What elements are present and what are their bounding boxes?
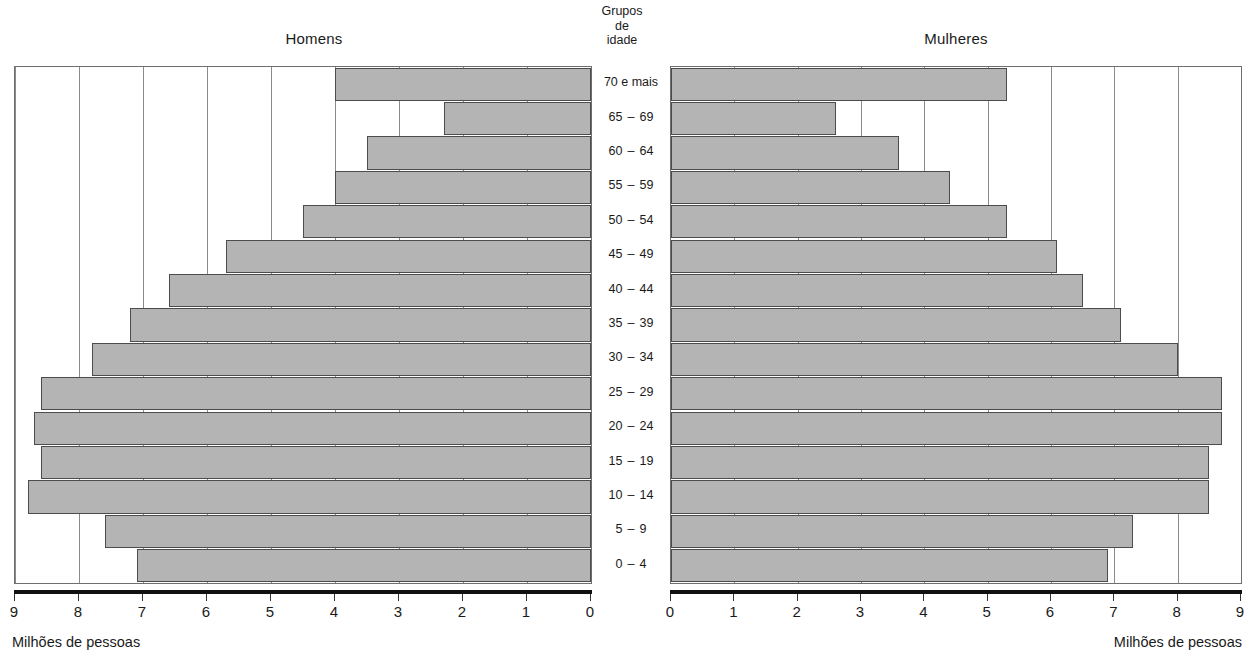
- age-group-label: 30–34: [592, 350, 670, 364]
- left-axis-caption: Milhões de pessoas: [12, 634, 140, 650]
- axis-tick-label: 9: [0, 603, 34, 620]
- axis-tick-label: 1: [506, 603, 546, 620]
- women-bar-row: [671, 515, 1241, 548]
- age-group-label: 20–24: [592, 419, 670, 433]
- women-bar-row: [671, 308, 1241, 341]
- axis-tick-label: 7: [1093, 603, 1133, 620]
- bar-women: [671, 308, 1121, 341]
- age-group-label: 50–54: [592, 213, 670, 227]
- bar-women: [671, 68, 1007, 101]
- axis-tick-label: 6: [1030, 603, 1070, 620]
- women-bar-row: [671, 480, 1241, 513]
- axis-tick-label: 5: [250, 603, 290, 620]
- bar-women: [671, 412, 1222, 445]
- men-bar-row: [15, 377, 591, 410]
- axis-tick: [526, 594, 527, 601]
- men-bar-row: [15, 240, 591, 273]
- bar-women: [671, 205, 1007, 238]
- men-bar-row: [15, 274, 591, 307]
- axis-tick-label: 8: [1157, 603, 1197, 620]
- bar-men: [105, 515, 591, 548]
- age-group-label: 25–29: [592, 385, 670, 399]
- axis-tick: [270, 594, 271, 601]
- axis-tick-label: 9: [1220, 603, 1256, 620]
- bar-women: [671, 480, 1209, 513]
- women-bar-row: [671, 412, 1241, 445]
- men-bar-row: [15, 515, 591, 548]
- axis-tick-label: 4: [903, 603, 943, 620]
- women-bar-row: [671, 240, 1241, 273]
- bar-women: [671, 240, 1057, 273]
- bar-men: [335, 68, 591, 101]
- bar-women: [671, 136, 899, 169]
- age-group-label-column: 70 e mais65–6960–6455–5950–5445–4940–443…: [592, 66, 670, 584]
- women-bar-row: [671, 68, 1241, 101]
- axis-tick-label: 2: [777, 603, 817, 620]
- men-bar-row: [15, 412, 591, 445]
- axis-tick: [206, 594, 207, 601]
- bar-women: [671, 377, 1222, 410]
- bar-men: [130, 308, 591, 341]
- men-bar-row: [15, 308, 591, 341]
- gridline: [1241, 67, 1242, 583]
- left-axis-ticks: 9876543210: [14, 594, 592, 628]
- axis-tick: [987, 594, 988, 601]
- axis-tick-label: 4: [314, 603, 354, 620]
- age-group-label: 5–9: [592, 522, 670, 536]
- population-pyramid-chart: Homens Mulheres Grupos de idade 70 e mai…: [0, 0, 1256, 666]
- bar-men: [226, 240, 591, 273]
- age-group-label: 40–44: [592, 282, 670, 296]
- women-bar-row: [671, 377, 1241, 410]
- axis-tick: [334, 594, 335, 601]
- age-group-header-line2: de: [574, 19, 670, 34]
- axis-tick-label: 3: [378, 603, 418, 620]
- men-bar-row: [15, 102, 591, 135]
- axis-tick: [590, 594, 591, 601]
- axis-tick-label: 0: [570, 603, 610, 620]
- bar-men: [28, 480, 591, 513]
- right-axis-ticks: 0123456789: [670, 594, 1242, 628]
- age-group-label: 60–64: [592, 144, 670, 158]
- age-group-header-line3: idade: [574, 33, 670, 48]
- women-bar-row: [671, 171, 1241, 204]
- right-panel-title: Mulheres: [656, 30, 1256, 47]
- axis-tick: [1240, 594, 1241, 601]
- men-bar-row: [15, 68, 591, 101]
- axis-tick: [733, 594, 734, 601]
- bar-women: [671, 549, 1108, 582]
- axis-tick-label: 2: [442, 603, 482, 620]
- women-bar-row: [671, 136, 1241, 169]
- women-bar-row: [671, 102, 1241, 135]
- bar-men: [41, 377, 591, 410]
- axis-tick: [1177, 594, 1178, 601]
- age-group-label: 45–49: [592, 247, 670, 261]
- bar-women: [671, 446, 1209, 479]
- age-group-label: 55–59: [592, 178, 670, 192]
- age-group-label: 35–39: [592, 316, 670, 330]
- bar-men: [335, 171, 591, 204]
- bar-men: [169, 274, 591, 307]
- men-bar-row: [15, 171, 591, 204]
- bar-men: [34, 412, 591, 445]
- right-axis-caption: Milhões de pessoas: [1114, 634, 1242, 650]
- women-bar-row: [671, 274, 1241, 307]
- age-group-label: 65–69: [592, 110, 670, 124]
- women-bar-row: [671, 446, 1241, 479]
- age-group-label: 0–4: [592, 557, 670, 571]
- axis-tick-label: 3: [840, 603, 880, 620]
- men-plot-area: [14, 66, 592, 584]
- women-bar-row: [671, 205, 1241, 238]
- axis-tick: [14, 594, 15, 601]
- axis-tick: [142, 594, 143, 601]
- age-group-header-line1: Grupos: [574, 4, 670, 19]
- bar-men: [92, 343, 591, 376]
- axis-tick-label: 0: [650, 603, 690, 620]
- axis-tick: [923, 594, 924, 601]
- axis-tick: [462, 594, 463, 601]
- axis-tick-label: 8: [58, 603, 98, 620]
- age-group-label: 10–14: [592, 488, 670, 502]
- bar-women: [671, 515, 1133, 548]
- axis-tick-label: 5: [967, 603, 1007, 620]
- axis-tick: [398, 594, 399, 601]
- axis-tick: [78, 594, 79, 601]
